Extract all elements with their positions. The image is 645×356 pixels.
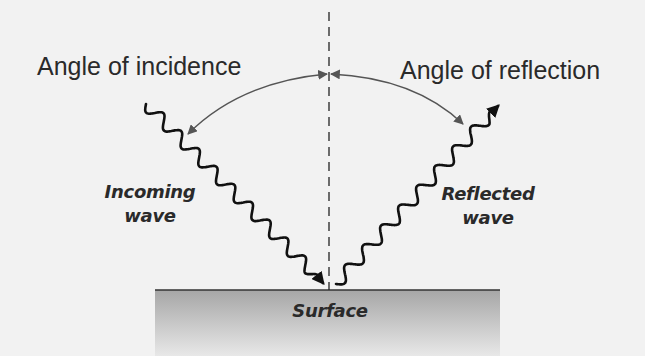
surface-label: Surface — [270, 299, 390, 323]
angle-of-incidence-label: Angle of incidence — [37, 52, 241, 81]
reflected-wave-label-line2: wave — [438, 206, 538, 230]
reflection-diagram: Angle of incidence Angle of reflection I… — [0, 0, 645, 356]
reflected-wave-label-line1: Reflected — [438, 182, 538, 206]
angle-of-reflection-label: Angle of reflection — [400, 56, 600, 85]
incoming-wave-label-line1: Incoming — [100, 180, 200, 204]
incidence-angle-arc — [188, 74, 327, 134]
reflected-wave-label: Reflected wave — [438, 182, 538, 230]
incoming-wave-label-line2: wave — [100, 204, 200, 228]
incoming-wave-label: Incoming wave — [100, 180, 200, 228]
